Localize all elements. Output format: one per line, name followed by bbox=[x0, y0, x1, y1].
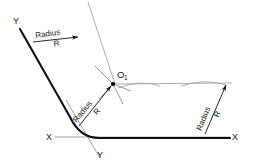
center-point-dot bbox=[111, 82, 115, 86]
dimension-label-letter-upper-left: R bbox=[53, 39, 60, 49]
dimension-label-letter-right: R bbox=[212, 110, 223, 119]
dimension-radius-upper-left: Radius R bbox=[33, 28, 78, 51]
diagram-canvas: O 1 Y Y X X Radius R Radius R bbox=[0, 0, 255, 165]
axis-label-y-top: Y bbox=[13, 16, 19, 26]
dimension-radius-right: Radius R bbox=[195, 85, 226, 136]
construction-lines bbox=[88, 2, 232, 104]
axis-label-y-bottom: Y bbox=[97, 150, 103, 160]
axis-label-x-right: X bbox=[232, 132, 238, 142]
tangency-arc-mark-right bbox=[181, 82, 226, 86]
axis-label-x-left: X bbox=[46, 132, 52, 142]
construction-line-inclined-outer bbox=[88, 2, 115, 84]
dimension-radius-center: Radius R bbox=[71, 86, 111, 131]
dimension-label-letter-center: R bbox=[92, 106, 103, 116]
dimension-label-word-right: Radius bbox=[195, 106, 213, 132]
center-point-subscript: 1 bbox=[124, 74, 128, 81]
engineering-diagram: O 1 Y Y X X Radius R Radius R bbox=[0, 0, 255, 165]
